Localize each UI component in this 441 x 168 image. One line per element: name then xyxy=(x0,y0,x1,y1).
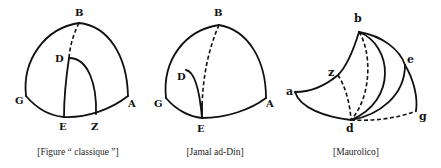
arc-d-z xyxy=(69,58,96,114)
caption-jamal-ad-din: [Jamal ad-Din] xyxy=(186,147,243,157)
figure-maurolico: b z a e g d xyxy=(286,12,427,135)
label-D: D xyxy=(55,53,64,64)
label-a: a xyxy=(286,85,293,98)
label-E: E xyxy=(59,121,67,132)
label-E: E xyxy=(197,123,205,134)
label-B: B xyxy=(75,7,83,18)
arc-d-e xyxy=(64,58,69,117)
label-B: B xyxy=(214,7,222,18)
dashed-arc-b-e xyxy=(202,25,219,112)
base-arc-g-e-a xyxy=(166,98,266,118)
label-G: G xyxy=(154,98,163,109)
dashed-arc-z-d xyxy=(338,75,351,120)
label-e: e xyxy=(407,53,414,66)
label-A: A xyxy=(265,98,274,109)
base-arc-g-e-a xyxy=(26,96,128,117)
figure-classique: B D G A E Z xyxy=(15,7,136,132)
label-D: D xyxy=(177,71,186,82)
arc-e-d xyxy=(351,65,405,120)
arc-a-d xyxy=(295,92,351,120)
diagram-canvas: B D G A E Z B D G A E b z a e g d xyxy=(0,0,441,168)
dashed-arc-b-d xyxy=(351,32,368,120)
outline-arc-g-b-a xyxy=(166,25,266,98)
arc-b-d-inner xyxy=(351,32,385,120)
label-G: G xyxy=(15,95,24,106)
label-b: b xyxy=(354,12,362,25)
label-g: g xyxy=(419,110,427,123)
dashed-arc-b-d xyxy=(69,23,79,58)
arc-b-z-a xyxy=(295,32,359,92)
arc-d-e xyxy=(186,70,202,118)
label-z: z xyxy=(328,66,334,79)
caption-maurolico: [Maurolico] xyxy=(333,147,379,157)
label-d: d xyxy=(346,122,354,135)
label-Z: Z xyxy=(91,121,98,132)
caption-classique: [Figure “ classique ”] xyxy=(37,147,119,157)
figure-jamal-ad-din: B D G A E xyxy=(154,7,274,134)
label-A: A xyxy=(127,98,136,109)
